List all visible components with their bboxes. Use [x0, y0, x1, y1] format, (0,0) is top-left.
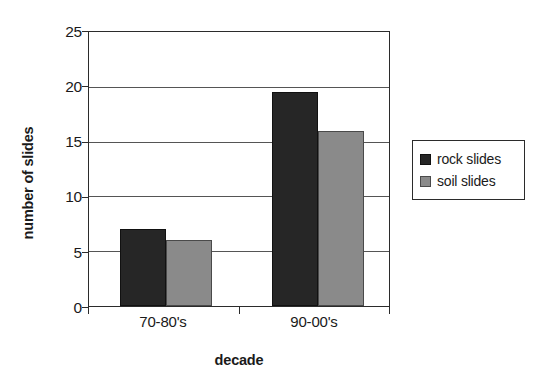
x-tick-label-70-80s: 70-80's: [88, 313, 238, 330]
y-tick-label-5: 5: [22, 245, 82, 261]
legend-label-soil-slides: soil slides: [437, 173, 496, 189]
y-tick-label-10: 10: [22, 189, 82, 205]
plot-area: [88, 31, 390, 307]
legend-label-rock-slides: rock slides: [437, 151, 501, 167]
y-tick-label-25: 25: [22, 24, 82, 40]
bar-soil-slides-90-00s[interactable]: [318, 131, 364, 306]
x-axis-title: decade: [88, 352, 390, 368]
y-tick-label-20: 20: [22, 79, 82, 95]
y-tick-label-0: 0: [22, 300, 82, 316]
bar-soil-slides-70-80s[interactable]: [166, 240, 212, 306]
legend-item-rock-slides[interactable]: rock slides: [420, 148, 518, 170]
bar-chart: number of slides 25 20 15 10 5 0 70-80's…: [0, 0, 533, 383]
x-tick-label-90-00s: 90-00's: [239, 313, 389, 330]
x-tick-mark-right: [389, 307, 390, 314]
chart-legend: rock slides soil slides: [412, 140, 525, 200]
legend-item-soil-slides[interactable]: soil slides: [420, 170, 518, 192]
gridline-20: [89, 87, 389, 88]
soil-slides-swatch-icon: [420, 176, 431, 187]
bar-rock-slides-70-80s[interactable]: [120, 229, 166, 306]
rock-slides-swatch-icon: [420, 154, 431, 165]
y-tick-label-15: 15: [22, 134, 82, 150]
y-axis-title: number of slides: [20, 103, 36, 263]
bar-rock-slides-90-00s[interactable]: [272, 92, 318, 306]
